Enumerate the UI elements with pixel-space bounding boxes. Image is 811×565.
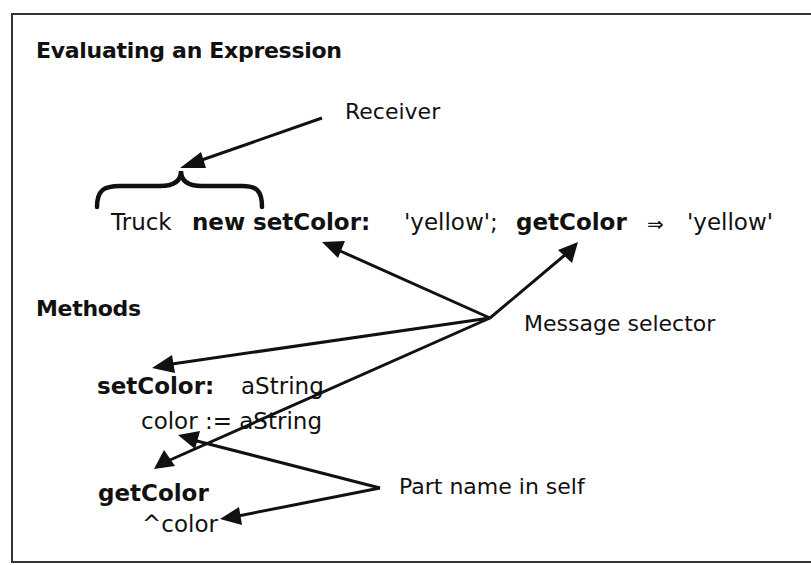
receiver-arrow-icon [180,118,322,168]
selector-arrow-setcolor-expr-icon [322,241,490,318]
receiver-brace [97,171,262,207]
selector-arrow-setcolor-method-icon [152,318,490,373]
selector-arrow-getcolor-method-icon [154,318,490,469]
part-name-arrow-return-icon [220,488,380,525]
selector-arrow-getcolor-expr-icon [490,242,578,318]
part-name-arrow-color-icon [178,431,380,488]
